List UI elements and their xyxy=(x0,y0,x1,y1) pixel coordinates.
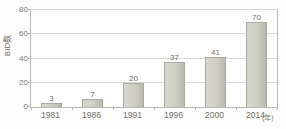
bar: 20 xyxy=(123,83,144,107)
bar: 3 xyxy=(41,103,62,107)
x-tick-mark xyxy=(31,107,32,110)
bar-value-label: 41 xyxy=(211,48,220,57)
gridline xyxy=(31,33,277,34)
x-tick-mark xyxy=(72,107,73,110)
y-tick-label: 40 xyxy=(19,53,28,62)
y-tick-mark xyxy=(28,82,31,83)
y-tick-label: 0 xyxy=(24,102,28,111)
x-tick-label: 1996 xyxy=(164,110,183,120)
bar: 7 xyxy=(82,99,103,107)
x-tick-label: 1986 xyxy=(82,110,101,120)
gridline xyxy=(31,58,277,59)
x-axis-unit-label: (年) xyxy=(262,112,274,122)
x-tick-mark xyxy=(236,107,237,110)
y-tick-label: 20 xyxy=(19,77,28,86)
y-axis-title: BID数 xyxy=(1,26,12,66)
bar-value-label: 20 xyxy=(129,74,138,83)
x-tick-mark xyxy=(195,107,196,110)
y-tick-label: 80 xyxy=(19,5,28,14)
bar: 70 xyxy=(246,22,267,107)
x-tick-mark xyxy=(277,107,278,110)
x-tick-label: 2000 xyxy=(205,110,224,120)
bar-value-label: 70 xyxy=(252,13,261,22)
x-tick-mark xyxy=(113,107,114,110)
plot-area: 020406080 3720374170 xyxy=(30,9,278,108)
bar-value-label: 3 xyxy=(49,94,53,103)
bar: 41 xyxy=(205,57,226,107)
bar-chart: BID数 020406080 3720374170 19811986199119… xyxy=(0,0,286,129)
y-tick-label: 60 xyxy=(19,29,28,38)
x-tick-label: 1991 xyxy=(123,110,142,120)
bar-value-label: 7 xyxy=(90,90,94,99)
y-tick-mark xyxy=(28,58,31,59)
gridline xyxy=(31,9,277,10)
x-tick-label: 1981 xyxy=(41,110,60,120)
bar: 37 xyxy=(164,62,185,107)
x-tick-mark xyxy=(154,107,155,110)
bar-value-label: 37 xyxy=(170,53,179,62)
y-tick-mark xyxy=(28,9,31,10)
gridline xyxy=(31,82,277,83)
y-tick-mark xyxy=(28,33,31,34)
